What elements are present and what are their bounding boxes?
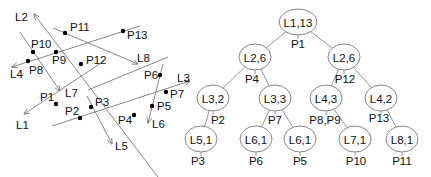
point-label: P5: [157, 100, 171, 112]
line-label: L7: [65, 87, 78, 99]
point-label: P11: [70, 21, 90, 33]
node-point-label: P10: [346, 155, 366, 167]
node-point-label: P11: [392, 155, 412, 167]
tree-node: L3,3P7: [259, 85, 291, 126]
node-label: L6,1: [289, 134, 311, 146]
node-label: L7,1: [344, 134, 366, 146]
point-dot: [89, 105, 93, 109]
node-label: L3,3: [264, 93, 286, 105]
tree-edge: [311, 32, 333, 48]
tree-edge: [261, 69, 269, 86]
point-dot: [63, 31, 67, 35]
point-dot: [132, 113, 136, 117]
node-label: L1,13: [284, 17, 313, 29]
tree-edge: [266, 32, 285, 48]
point-label: P12: [86, 54, 106, 66]
tree-node: L6,1P5: [284, 126, 316, 167]
point-label: P8: [29, 64, 43, 76]
tree-edge: [353, 67, 371, 87]
line-label: L4: [10, 68, 23, 80]
point-dot: [150, 104, 154, 108]
tree-node: L3,2P2: [197, 85, 229, 126]
tree-node: L7,1P10: [339, 126, 371, 167]
tree-node: L2,6P12: [328, 44, 360, 85]
line-label: L5: [115, 140, 128, 152]
point-label: P4: [118, 114, 133, 126]
node-point-label: P2: [211, 114, 225, 126]
diagram-canvas: L1L2L3L4L5L6L7L8 P1P2P3P4P5P6P7P8P9P10P1…: [0, 0, 431, 177]
node-label: L4,3: [315, 93, 337, 105]
node-label: L4,2: [370, 93, 392, 105]
line-arrangement: L1L2L3L4L5L6L7L8: [10, 11, 190, 177]
node-point-label: P7: [268, 114, 282, 126]
node-point-label: P3: [191, 155, 205, 167]
tree-node: L4,3P8,P9: [309, 85, 342, 126]
tree-node: L2,6P4: [239, 44, 271, 85]
node-point-label: P6: [249, 155, 263, 167]
line-label: L3: [177, 72, 190, 84]
point-dot: [31, 50, 35, 54]
point-label: P2: [65, 105, 79, 117]
point-dot: [121, 29, 125, 33]
tree-edge: [205, 111, 210, 127]
line-label: L8: [137, 52, 150, 64]
point-label: P3: [95, 96, 109, 108]
line-label: L6: [152, 118, 165, 130]
point-label: P1: [40, 91, 54, 103]
node-label: L2,6: [333, 52, 355, 64]
node-label: L3,2: [202, 93, 224, 105]
partition-tree: L1,13P1L2,6P4L2,6P12L3,2P2L3,3P7L4,3P8,P…: [185, 9, 418, 167]
node-point-label: P8,P9: [309, 114, 340, 126]
node-point-label: P13: [369, 112, 389, 124]
point-label: P13: [127, 29, 147, 41]
tree-node: L5,1P3: [185, 126, 217, 167]
node-label: L5,1: [190, 134, 212, 146]
tree-edge: [223, 67, 245, 88]
node-label: L6,1: [245, 134, 267, 146]
node-label: L2,6: [244, 52, 266, 64]
point-label: P7: [170, 88, 184, 100]
point-label: P10: [31, 38, 51, 50]
node-point-label: P1: [291, 38, 305, 50]
tree-node: L8,1P11: [386, 126, 418, 167]
line-label: L1: [16, 119, 29, 131]
point-dot: [54, 102, 58, 106]
tree-node: L1,13P1: [279, 9, 317, 50]
node-point-label: P4: [245, 73, 260, 85]
line-label: L2: [15, 11, 28, 23]
tree-edge: [282, 110, 293, 128]
point-label: P6: [144, 69, 158, 81]
node-label: L8,1: [391, 134, 413, 146]
tree-node: L6,1P6: [240, 126, 272, 167]
point-label: P9: [52, 54, 66, 66]
point-dot: [26, 59, 30, 63]
tree-node: L4,2P13: [365, 85, 397, 124]
point-dot: [164, 90, 168, 94]
point-set: P1P2P3P4P5P6P7P8P9P10P11P12P13: [26, 21, 184, 126]
point-dot: [79, 62, 83, 66]
node-point-label: P5: [293, 155, 307, 167]
node-point-label: P12: [335, 73, 355, 85]
point-dot: [158, 73, 162, 77]
